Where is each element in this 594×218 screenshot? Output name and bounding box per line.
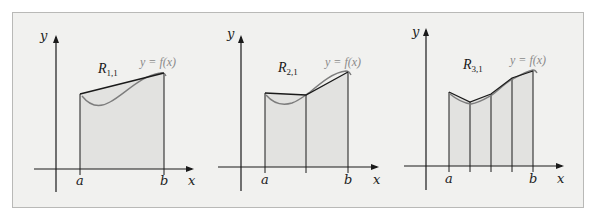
panel-3: y R3,1 y = f(x) a b x xyxy=(404,24,565,190)
tick-label-b: b xyxy=(344,172,352,187)
tick-label-b: b xyxy=(160,173,168,188)
x-axis-label: x xyxy=(188,173,196,188)
function-label: y = f(x) xyxy=(324,55,361,69)
region-label: R3,1 xyxy=(462,57,483,74)
trapezoid-rule-figure: y R1,1 y = f(x) a b x y R2,1 y = f(x) a … xyxy=(0,0,594,218)
trapezoid-region xyxy=(80,73,164,169)
y-axis-label: y xyxy=(39,28,48,43)
function-label: y = f(x) xyxy=(139,55,176,69)
function-label: y = f(x) xyxy=(509,53,546,67)
tick-label-a: a xyxy=(445,171,453,186)
tick-label-a: a xyxy=(76,173,84,188)
tick-label-b: b xyxy=(529,171,537,186)
x-axis-label: x xyxy=(373,172,381,187)
x-axis-label: x xyxy=(557,171,565,186)
y-axis-label: y xyxy=(411,24,420,39)
panel-2: y R2,1 y = f(x) a b x xyxy=(218,26,381,191)
region-label: R1,1 xyxy=(97,61,118,78)
tick-label-a: a xyxy=(261,172,269,187)
region-label: R2,1 xyxy=(277,60,298,77)
panel-1: y R1,1 y = f(x) a b x xyxy=(34,28,196,192)
y-axis-label: y xyxy=(226,26,235,41)
